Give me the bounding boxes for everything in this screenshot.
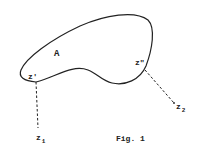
label-z2-base: z	[176, 102, 181, 111]
path-z-double-prime-to-z2	[145, 70, 174, 103]
label-z1-sub: 1	[42, 138, 46, 145]
label-z-prime: z'	[28, 72, 38, 81]
label-z1-base: z	[36, 133, 41, 142]
label-z2: z2	[176, 102, 186, 114]
label-z1: z1	[36, 133, 46, 145]
z2-endpoint-dot	[173, 102, 175, 104]
figure-diagram: A z' z" z1 z2 Fig. 1	[0, 0, 200, 153]
path-z-prime-to-z1	[36, 82, 38, 128]
label-z2-sub: 2	[182, 107, 186, 114]
region-label-a: A	[54, 49, 60, 59]
label-z-double-prime: z"	[135, 58, 145, 67]
region-a-boundary	[20, 15, 152, 84]
figure-caption: Fig. 1	[116, 134, 145, 143]
